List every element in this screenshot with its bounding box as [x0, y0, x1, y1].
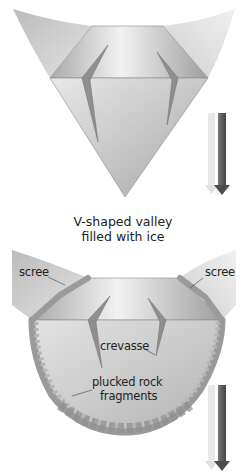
flow-arrow-bottom	[205, 385, 230, 471]
v-valley-ice-face	[50, 78, 208, 197]
caption-line-2: filled with ice	[0, 229, 246, 244]
label-crevasse: crevasse	[100, 340, 149, 353]
label-scree-left: scree	[19, 266, 49, 279]
label-plucked-rock-1: plucked rock	[92, 376, 162, 389]
label-plucked-rock-2: fragments	[100, 390, 157, 403]
flow-arrow-top	[205, 113, 230, 195]
v-valley-panel	[13, 9, 235, 197]
label-scree-right: scree	[205, 266, 235, 279]
caption-line-1: V-shaped valley	[0, 214, 246, 229]
